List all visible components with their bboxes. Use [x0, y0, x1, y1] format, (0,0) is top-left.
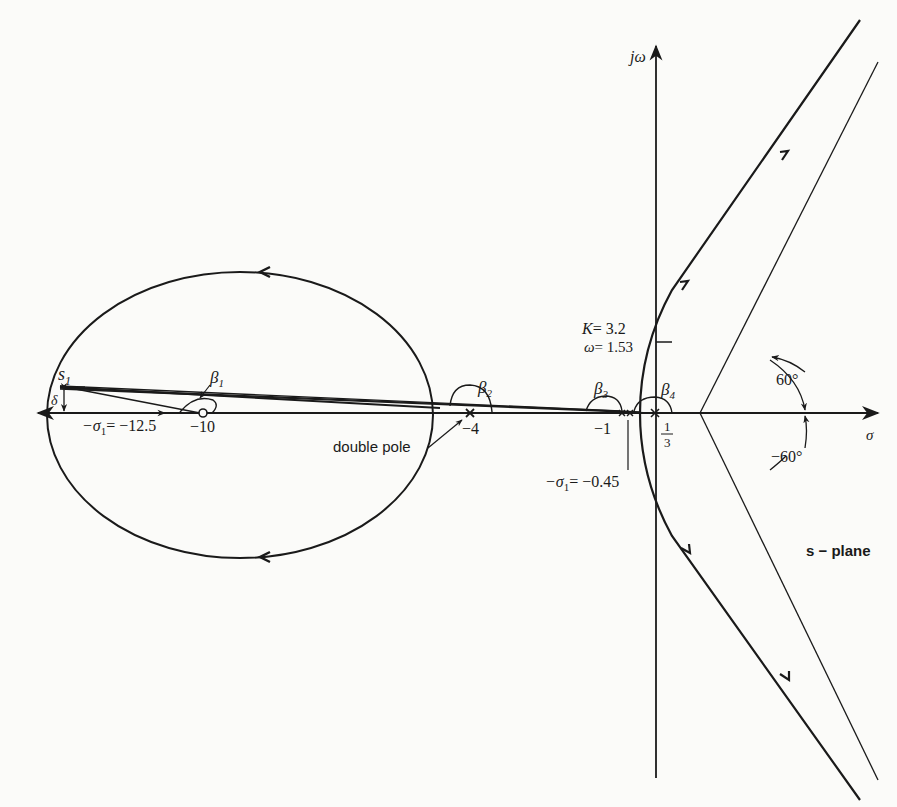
imag-axis-label: jω	[628, 48, 646, 66]
omega-label: ω= 1.53	[584, 339, 633, 355]
arrow-up-1-icon	[680, 281, 688, 290]
s1-label: s1	[58, 364, 71, 388]
pole-minus1-label: −1	[594, 420, 611, 437]
zero-marker	[199, 409, 207, 417]
root-locus-diagram: σ jω 60° −60° K= 3.2 ω= 1.53	[0, 0, 897, 807]
gain-label: K= 3.2	[581, 320, 626, 337]
beta3-label: β3	[593, 379, 608, 400]
svg-text:3: 3	[664, 435, 671, 450]
arrow-top-icon	[260, 267, 270, 277]
angle-neg60-label: −60°	[771, 448, 802, 465]
double-pole-minus4-label: −4	[462, 420, 479, 437]
sigma1-right-label: −σ1= −0.45	[545, 473, 619, 493]
locus-upper-branch	[640, 20, 860, 413]
arrow-down-2-icon	[780, 671, 789, 680]
beta1-label: β1	[209, 368, 224, 389]
zero-minus10-label: −10	[190, 418, 215, 435]
beta4-label: β4	[660, 380, 675, 401]
arrow-up-2-icon	[780, 151, 788, 160]
delta-label: δ	[51, 393, 58, 408]
sigma1-left-label: −σ1= −12.5	[82, 417, 156, 437]
vectors-from-s1	[60, 386, 650, 413]
double-pole-label: double pole	[333, 438, 411, 455]
locus-lower-branch	[640, 413, 860, 800]
locus-ellipse	[47, 267, 433, 562]
beta2-label: β2	[477, 378, 492, 399]
svg-text:1: 1	[664, 419, 671, 434]
real-axis-label: σ	[866, 427, 874, 443]
one-third-label: 1 3	[661, 419, 673, 450]
s-plane-label: s − plane	[806, 542, 871, 559]
angle-60-label: 60°	[776, 371, 798, 388]
